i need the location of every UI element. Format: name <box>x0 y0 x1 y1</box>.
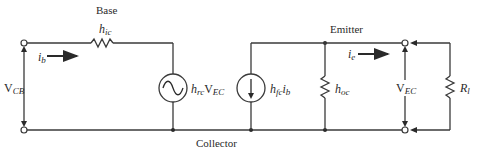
input-terminal-top <box>21 40 27 46</box>
vec-arrow-down-icon <box>402 121 408 127</box>
hrc-vec-label: hrcVEC <box>191 82 225 97</box>
vec-arrow-up-icon <box>402 46 408 52</box>
load-arrow-top-icon <box>410 40 417 46</box>
h-ic-label: hic <box>99 22 112 37</box>
vcb-arrow-up-icon <box>21 46 27 52</box>
emitter-label: Emitter <box>330 23 363 35</box>
ie-label: ie <box>348 47 355 62</box>
vcb-arrow-down-icon <box>21 121 27 127</box>
load-arrow-bottom-icon <box>410 127 417 133</box>
output-terminal-bottom <box>402 127 408 133</box>
input-network <box>27 39 402 130</box>
base-label: Base <box>96 4 118 16</box>
load-network <box>413 43 454 130</box>
ib-label: ib <box>38 50 46 65</box>
circuit-diagram: Base Emitter Collector VCB ib hic hrcVEC <box>0 0 483 154</box>
collector-label: Collector <box>196 137 237 149</box>
dependent-current-source <box>237 74 265 102</box>
h-oc-label: hoc <box>335 82 350 97</box>
vcb-label: VCB <box>4 81 25 96</box>
h-oc-resistor-icon <box>321 76 329 98</box>
hfc-ib-label: hfcib <box>270 82 291 97</box>
h-ic-resistor-icon <box>91 39 113 47</box>
input-terminal-bottom <box>21 127 27 133</box>
rl-label: Rl <box>459 81 470 96</box>
junction-dot <box>171 128 175 132</box>
output-terminal-top <box>402 40 408 46</box>
ac-voltage-source <box>159 74 187 102</box>
rl-resistor-icon <box>446 76 454 98</box>
